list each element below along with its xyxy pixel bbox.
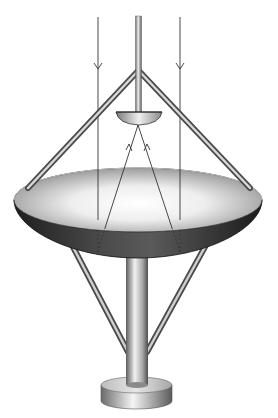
subreflector (116, 112, 162, 125)
main-reflector (14, 168, 262, 258)
pedestal-pole (126, 255, 148, 388)
antenna-diagram: Cassegrain parabolic dish antenna (0, 0, 278, 418)
feed-mast (136, 16, 142, 114)
